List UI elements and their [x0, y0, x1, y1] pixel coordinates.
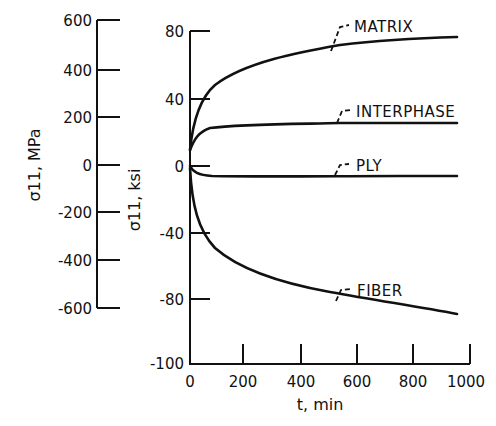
ksi-tick: -40	[160, 225, 185, 243]
mpa-tick: -400	[58, 252, 92, 270]
ksi-tick-labels: 80 40 0 -40 -80 -100	[150, 23, 184, 373]
interphase-leader	[337, 110, 351, 123]
ply-curve	[190, 166, 457, 176]
mpa-tick: 200	[63, 109, 92, 127]
fiber-label: FIBER	[357, 282, 403, 300]
fiber-curve	[190, 168, 457, 314]
interphase-curve	[190, 123, 457, 150]
mpa-tick: -600	[58, 300, 92, 318]
x-axis-title: t, min	[297, 395, 344, 414]
x-axis	[189, 344, 470, 364]
ksi-tick: 0	[174, 158, 184, 176]
ksi-tick: -80	[160, 291, 185, 309]
mpa-tick: 0	[82, 157, 92, 175]
mpa-tick: 600	[63, 12, 92, 30]
x-tick: 400	[287, 373, 316, 391]
mpa-axis	[97, 20, 120, 308]
x-tick: 600	[343, 373, 372, 391]
ksi-tick: 80	[165, 23, 184, 41]
mpa-tick: -200	[58, 204, 92, 222]
x-tick: 0	[185, 373, 195, 391]
ksi-tick: -100	[150, 355, 184, 373]
mpa-axis-title: σ11, MPa	[25, 128, 44, 201]
ply-label: PLY	[356, 157, 382, 175]
chart: 600 400 200 0 -200 -400 -600 σ11, MPa 80…	[0, 0, 496, 426]
x-tick-labels: 0 200 400 600 800 1000	[185, 373, 485, 391]
ksi-axis-title: σ11, ksi	[125, 169, 144, 232]
matrix-curve	[190, 37, 457, 150]
mpa-tick-labels: 600 400 200 0 -200 -400 -600	[58, 12, 92, 318]
interphase-label: INTERPHASE	[356, 103, 455, 121]
x-tick: 200	[229, 373, 258, 391]
mpa-tick: 400	[63, 62, 92, 80]
x-tick: 1000	[447, 373, 485, 391]
ksi-tick: 40	[165, 91, 184, 109]
ply-leader	[335, 164, 349, 175]
x-tick: 800	[399, 373, 428, 391]
matrix-label: MATRIX	[354, 18, 413, 36]
